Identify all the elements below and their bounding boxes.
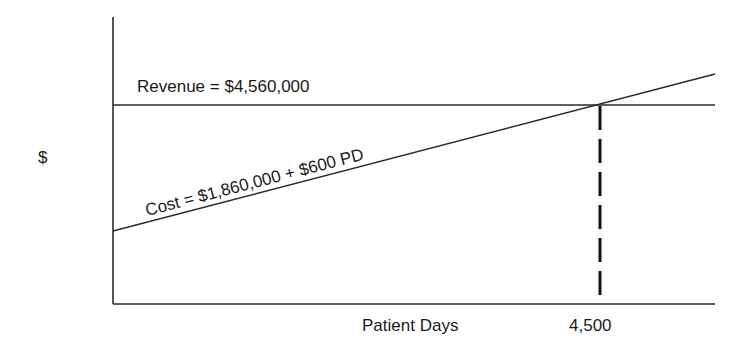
break-even-chart: Revenue = $4,560,000 Cost = $1,860,000 +… [0, 0, 753, 359]
cost-line [113, 74, 715, 231]
cost-label: Cost = $1,860,000 + $600 PD [143, 145, 365, 220]
revenue-label: Revenue = $4,560,000 [137, 77, 310, 96]
y-axis-label: $ [38, 148, 48, 167]
x-tick-label-4500: 4,500 [569, 316, 612, 335]
x-axis-label: Patient Days [362, 316, 458, 335]
